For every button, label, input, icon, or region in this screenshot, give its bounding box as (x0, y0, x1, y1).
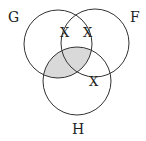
mark-x: X (60, 25, 70, 40)
label-f: F (130, 9, 140, 25)
venn-diagram: G F H X X X (0, 0, 146, 141)
label-h: H (72, 121, 84, 137)
label-g: G (8, 9, 19, 25)
mark-x: X (89, 74, 99, 89)
circle-f (61, 9, 129, 77)
mark-x: X (83, 25, 93, 40)
